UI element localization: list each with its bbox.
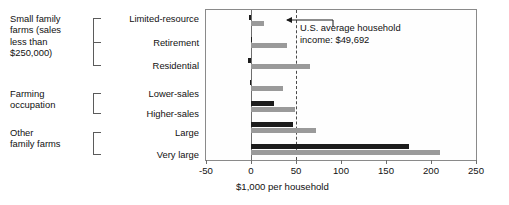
bracket-tick-retirement: [93, 42, 101, 43]
bar-retirement-farm-income: [251, 37, 253, 42]
bar-lower-sales-total-household-income: [251, 86, 283, 91]
category-label-residential: Residential: [101, 60, 199, 71]
bar-higher-sales-farm-income: [251, 101, 274, 106]
category-label-higher-sales: Higher-sales: [101, 108, 199, 119]
category-label-limited-resource: Limited-resource: [101, 13, 199, 24]
x-axis-tick-label-250: 250: [456, 165, 496, 176]
category-label-lower-sales: Lower-sales: [101, 88, 199, 99]
group-label-other-family-farms: Other family farms: [10, 127, 88, 150]
x-axis-tick-50: [296, 160, 297, 164]
bar-higher-sales-total-household-income: [251, 107, 295, 112]
bar-limited-resource-farm-income: [249, 15, 251, 20]
x-axis-title: $1,000 per household: [236, 181, 329, 192]
x-axis-tick-label--50: -50: [186, 165, 226, 176]
bar-large-farm-income: [251, 122, 293, 127]
bar-residential-farm-income: [248, 58, 251, 63]
bracket-farming-occupation: [93, 93, 101, 114]
x-axis-tick-250: [476, 160, 477, 164]
group-label-small-family-farms: Small family farms (sales less than $250…: [10, 13, 88, 59]
group-label-farming-occupation: Farming occupation: [10, 88, 88, 111]
chart-container: Small family farms (sales less than $250…: [0, 0, 509, 205]
x-axis-tick-label-50: 50: [276, 165, 316, 176]
category-label-retirement: Retirement: [101, 37, 199, 48]
reference-line-annotation: U.S. average household income: $49,692: [300, 22, 430, 46]
x-axis-tick-label-200: 200: [411, 165, 451, 176]
bar-lower-sales-farm-income: [250, 80, 252, 85]
x-axis-tick-0: [251, 160, 252, 164]
category-label-very-large: Very large: [101, 149, 199, 160]
x-axis-tick-100: [341, 160, 342, 164]
bar-retirement-total-household-income: [251, 43, 287, 48]
bar-very-large-total-household-income: [251, 150, 440, 155]
x-axis-tick-label-150: 150: [366, 165, 406, 176]
reference-line: [296, 10, 297, 160]
category-label-large: Large: [101, 127, 199, 138]
x-axis-tick-label-100: 100: [321, 165, 361, 176]
bar-limited-resource-total-household-income: [251, 21, 264, 26]
bracket-other-family-farms: [93, 132, 101, 155]
x-axis-tick--50: [206, 160, 207, 164]
x-axis-tick-150: [386, 160, 387, 164]
bar-very-large-farm-income: [251, 144, 409, 149]
bar-residential-total-household-income: [251, 64, 310, 69]
bar-large-total-household-income: [251, 128, 316, 133]
x-axis-tick-200: [431, 160, 432, 164]
x-axis-tick-label-0: 0: [231, 165, 271, 176]
